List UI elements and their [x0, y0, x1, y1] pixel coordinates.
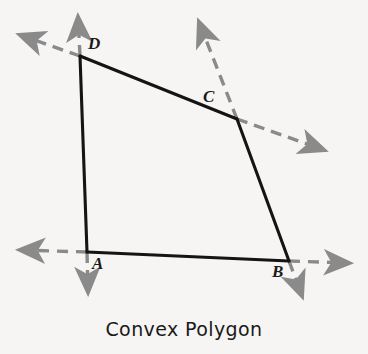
figure-caption: Convex Polygon [0, 318, 368, 340]
edge-DA [80, 56, 87, 252]
vertex-label-d: D [88, 35, 100, 52]
vertex-label-a: A [92, 255, 103, 272]
extended-line-AB-left-ray [20, 250, 87, 252]
extended-line-DA-up-ray [78, 17, 80, 56]
convex-polygon-figure: A B C D Convex Polygon [0, 0, 368, 354]
vertex-label-b: B [272, 263, 283, 280]
vertex-label-c: C [203, 88, 214, 105]
polygon-edges-group [80, 56, 289, 261]
extended-line-DA-down-ray [87, 252, 88, 292]
extended-line-AB-right-ray [289, 261, 349, 263]
geometry-diagram [0, 0, 368, 354]
edge-AB [87, 252, 289, 261]
extended-line-CD-left-ray [20, 35, 80, 56]
extended-line-BC-down-ray [289, 261, 302, 296]
extended-line-CD-right-ray [237, 119, 324, 150]
edge-BC [237, 119, 289, 261]
extension-lines-group [20, 17, 349, 296]
